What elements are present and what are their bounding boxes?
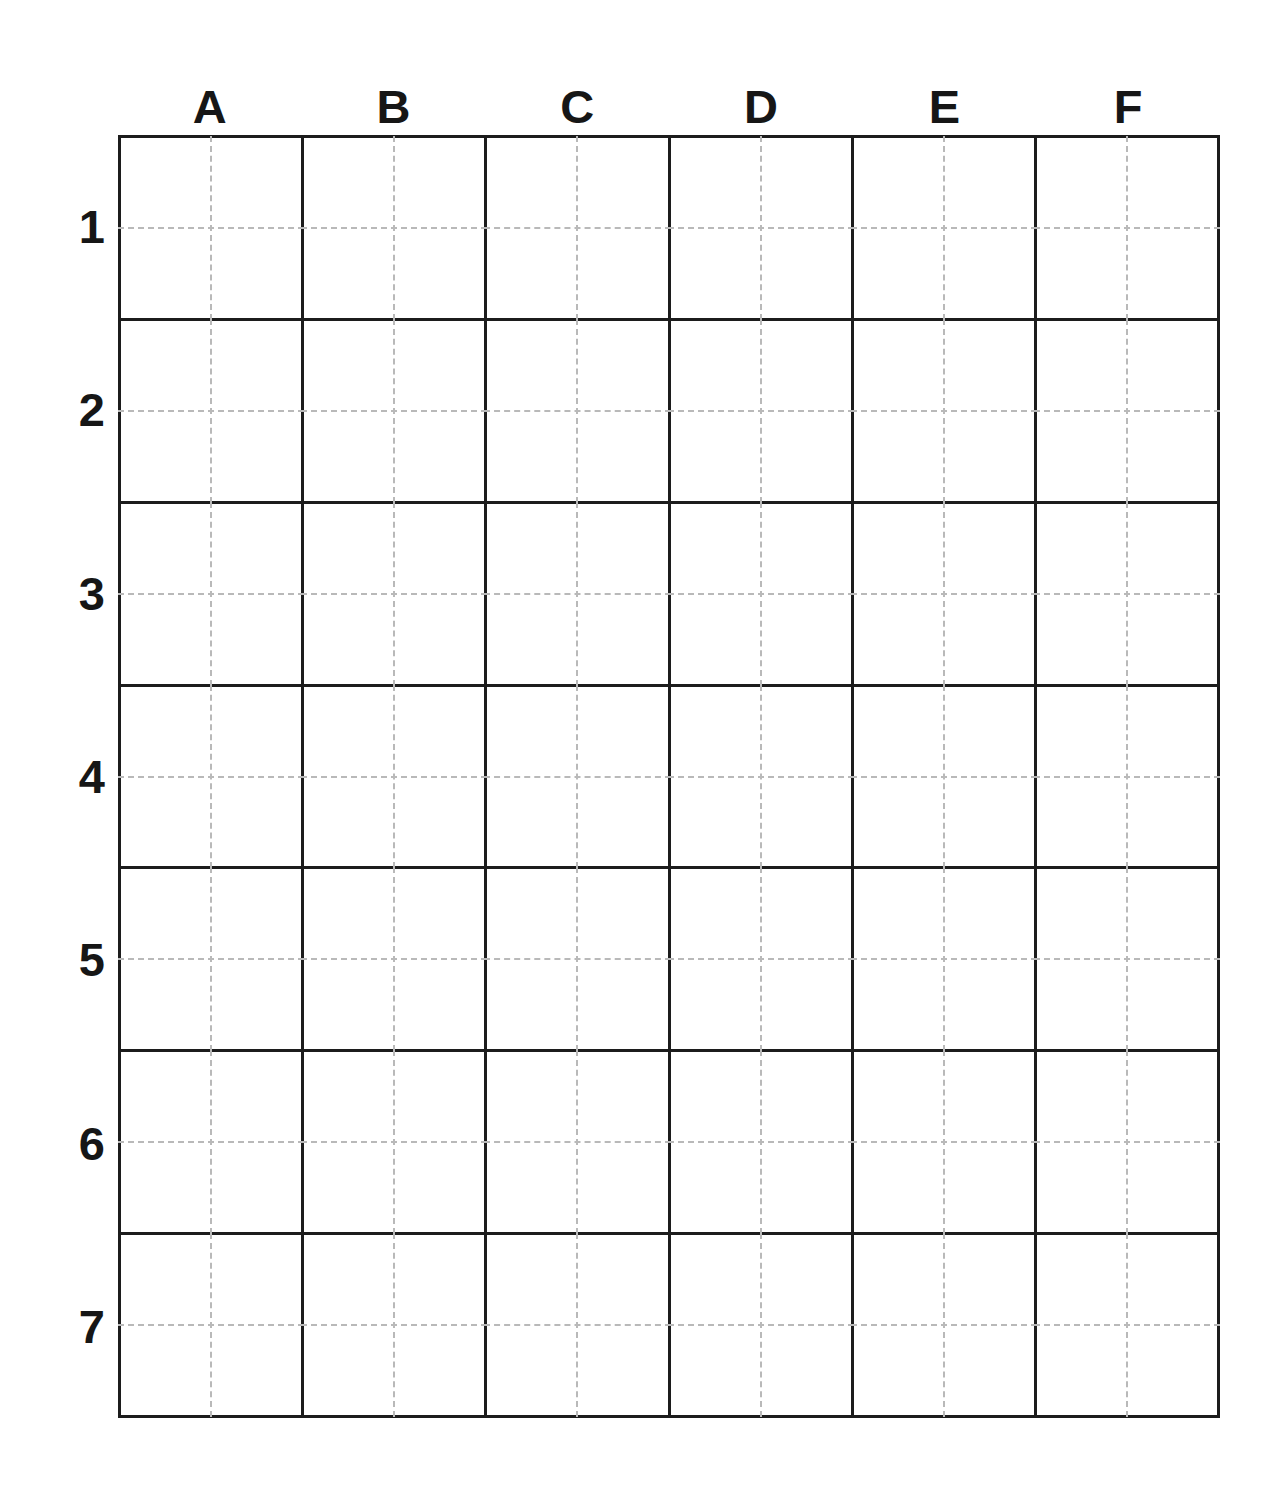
- grid-cell-d7[interactable]: [671, 1235, 854, 1415]
- cell-guide-vertical-icon: [760, 136, 762, 320]
- cell-guide-vertical-icon: [1126, 319, 1128, 503]
- cell-guide-horizontal-icon: [668, 1141, 854, 1143]
- cell-guide-vertical-icon: [210, 1050, 212, 1234]
- grid-cell-f4[interactable]: [1037, 687, 1217, 867]
- grid-cell-e1[interactable]: [854, 138, 1037, 318]
- grid-cell-b6[interactable]: [304, 1052, 487, 1232]
- grid-cell-c7[interactable]: [487, 1235, 670, 1415]
- grid-cell-b4[interactable]: [304, 687, 487, 867]
- grid-cell-c3[interactable]: [487, 504, 670, 684]
- row-header-column: 1 2 3 4 5 6 7: [52, 135, 108, 1418]
- grid-cell-b3[interactable]: [304, 504, 487, 684]
- table-row: [121, 1052, 1217, 1235]
- grid-cell-c2[interactable]: [487, 321, 670, 501]
- cell-guide-vertical-icon: [1126, 1050, 1128, 1234]
- grid-cell-e2[interactable]: [854, 321, 1037, 501]
- grid-cell-e3[interactable]: [854, 504, 1037, 684]
- cell-guide-horizontal-icon: [484, 593, 670, 595]
- cell-guide-vertical-icon: [393, 1233, 395, 1417]
- cell-guide-horizontal-icon: [301, 1324, 487, 1326]
- cell-guide-vertical-icon: [943, 319, 945, 503]
- grid-cell-a6[interactable]: [121, 1052, 304, 1232]
- cell-guide-horizontal-icon: [668, 410, 854, 412]
- worksheet-sheet: A B C D E F 1 2 3 4 5 6 7: [0, 0, 1277, 1503]
- grid-cell-a5[interactable]: [121, 869, 304, 1049]
- column-header-b: B: [302, 72, 486, 130]
- grid-cell-d3[interactable]: [671, 504, 854, 684]
- cell-guide-vertical-icon: [760, 1233, 762, 1417]
- cell-guide-horizontal-icon: [301, 776, 487, 778]
- grid-cell-b2[interactable]: [304, 321, 487, 501]
- grid-cell-b1[interactable]: [304, 138, 487, 318]
- cell-guide-vertical-icon: [760, 685, 762, 869]
- grid-cell-d4[interactable]: [671, 687, 854, 867]
- table-row: [121, 321, 1217, 504]
- grid-cell-d5[interactable]: [671, 869, 854, 1049]
- cell-guide-vertical-icon: [1126, 867, 1128, 1051]
- cell-guide-horizontal-icon: [668, 958, 854, 960]
- grid-cell-d1[interactable]: [671, 138, 854, 318]
- cell-guide-horizontal-icon: [301, 958, 487, 960]
- cell-guide-vertical-icon: [210, 502, 212, 686]
- cell-guide-vertical-icon: [576, 136, 578, 320]
- cell-guide-vertical-icon: [576, 502, 578, 686]
- row-header-6: 6: [52, 1051, 108, 1234]
- grid-cell-e4[interactable]: [854, 687, 1037, 867]
- cell-guide-vertical-icon: [1126, 685, 1128, 869]
- grid-cell-f3[interactable]: [1037, 504, 1217, 684]
- grid-cell-a2[interactable]: [121, 321, 304, 501]
- grid-cell-c4[interactable]: [487, 687, 670, 867]
- grid-cell-b7[interactable]: [304, 1235, 487, 1415]
- cell-guide-vertical-icon: [943, 502, 945, 686]
- cell-guide-horizontal-icon: [668, 593, 854, 595]
- grid-cell-d6[interactable]: [671, 1052, 854, 1232]
- grid-cell-a7[interactable]: [121, 1235, 304, 1415]
- cell-guide-horizontal-icon: [851, 776, 1037, 778]
- cell-guide-horizontal-icon: [1034, 958, 1220, 960]
- grid-cell-e7[interactable]: [854, 1235, 1037, 1415]
- cell-guide-vertical-icon: [576, 685, 578, 869]
- cell-guide-vertical-icon: [210, 1233, 212, 1417]
- grid-cell-c6[interactable]: [487, 1052, 670, 1232]
- grid-cell-f5[interactable]: [1037, 869, 1217, 1049]
- cell-guide-horizontal-icon: [118, 227, 304, 229]
- grid-cell-a4[interactable]: [121, 687, 304, 867]
- cell-guide-vertical-icon: [943, 1050, 945, 1234]
- cell-guide-horizontal-icon: [1034, 410, 1220, 412]
- grid-cell-f1[interactable]: [1037, 138, 1217, 318]
- grid-cell-a1[interactable]: [121, 138, 304, 318]
- column-header-d: D: [669, 72, 853, 130]
- cell-guide-vertical-icon: [576, 867, 578, 1051]
- cell-guide-vertical-icon: [576, 1233, 578, 1417]
- grid-cell-d2[interactable]: [671, 321, 854, 501]
- cell-guide-vertical-icon: [1126, 1233, 1128, 1417]
- row-header-5: 5: [52, 868, 108, 1051]
- cell-guide-horizontal-icon: [301, 227, 487, 229]
- row-header-3: 3: [52, 502, 108, 685]
- grid-cell-e6[interactable]: [854, 1052, 1037, 1232]
- cell-guide-vertical-icon: [393, 867, 395, 1051]
- cell-guide-horizontal-icon: [118, 1324, 304, 1326]
- cell-guide-vertical-icon: [943, 136, 945, 320]
- cell-guide-vertical-icon: [760, 319, 762, 503]
- grid-cell-f7[interactable]: [1037, 1235, 1217, 1415]
- grid-cell-f2[interactable]: [1037, 321, 1217, 501]
- grid-cell-f6[interactable]: [1037, 1052, 1217, 1232]
- grid-cell-e5[interactable]: [854, 869, 1037, 1049]
- table-row: [121, 1235, 1217, 1415]
- table-row: [121, 504, 1217, 687]
- grid-cell-a3[interactable]: [121, 504, 304, 684]
- grid-cell-c5[interactable]: [487, 869, 670, 1049]
- cell-guide-vertical-icon: [393, 502, 395, 686]
- grid-cell-c1[interactable]: [487, 138, 670, 318]
- cell-guide-vertical-icon: [393, 319, 395, 503]
- cell-guide-vertical-icon: [760, 1050, 762, 1234]
- cell-guide-horizontal-icon: [301, 410, 487, 412]
- cell-guide-horizontal-icon: [484, 958, 670, 960]
- cell-guide-horizontal-icon: [484, 227, 670, 229]
- cell-guide-vertical-icon: [576, 319, 578, 503]
- grid-cell-b5[interactable]: [304, 869, 487, 1049]
- column-header-e: E: [853, 72, 1037, 130]
- cell-guide-vertical-icon: [210, 685, 212, 869]
- cell-guide-horizontal-icon: [1034, 776, 1220, 778]
